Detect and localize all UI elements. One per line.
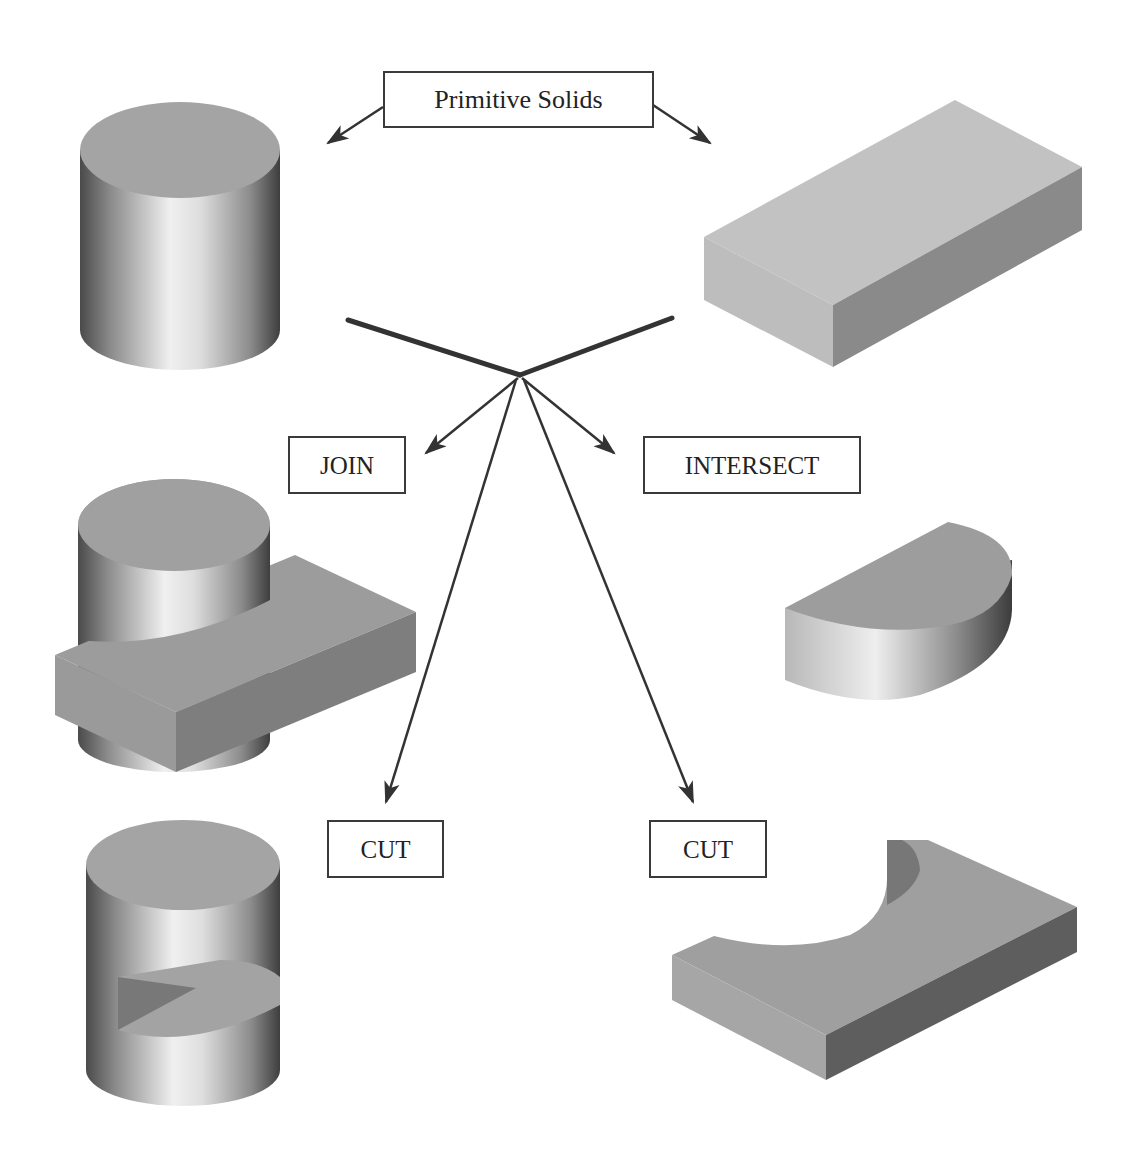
join-label: JOIN [288,436,406,494]
primitive-solids-text: Primitive Solids [434,87,602,113]
cut-right-label: CUT [649,820,767,878]
primitive-solids-label: Primitive Solids [383,71,654,128]
intersect-arrow [522,378,614,453]
cut-left-label: CUT [327,820,444,878]
cut-left-text: CUT [361,837,411,862]
csg-diagram [0,0,1139,1170]
cut-right-text: CUT [683,837,733,862]
join-result-shape [55,479,416,772]
cut-left-result-shape [86,820,280,1106]
primitive-cylinder-shape [80,102,280,370]
primitive-box-shape [704,100,1082,367]
join-text: JOIN [320,453,374,478]
intersect-label: INTERSECT [643,436,861,494]
intersect-result-shape [785,522,1012,700]
merge-lines [348,318,672,375]
intersect-text: INTERSECT [685,453,820,478]
